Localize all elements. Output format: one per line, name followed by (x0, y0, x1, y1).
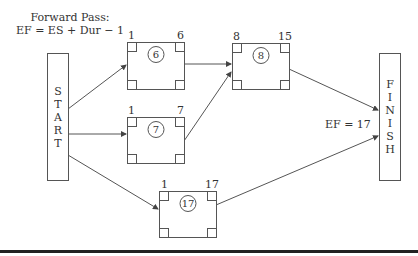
start-letter: S (54, 85, 62, 98)
node-7-ef: 7 (177, 105, 184, 117)
finish-letter: I (388, 91, 392, 104)
start-letter: T (54, 137, 61, 150)
start-letter: A (54, 111, 62, 124)
node-7-id: 7 (148, 121, 165, 138)
activity-node-8: 8 (232, 43, 290, 90)
node-8-ef: 15 (278, 31, 292, 43)
node-17-ef: 17 (205, 179, 219, 191)
activity-node-17: 17 (159, 191, 217, 238)
arrow-7-to-8 (184, 72, 231, 141)
arrow-17-to-finish (216, 136, 378, 205)
start-node: S T A R T (47, 53, 69, 181)
node-6-es: 1 (128, 30, 135, 42)
project-ef-label: EF = 17 (325, 118, 371, 131)
node-6-id: 6 (148, 46, 165, 63)
diagram-title-line1: Forward Pass: (0, 11, 140, 24)
bottom-rule (0, 250, 418, 253)
node-8-es: 8 (233, 31, 240, 43)
activity-node-6: 6 (127, 42, 185, 90)
node-17-id: 17 (180, 195, 197, 212)
finish-letter: H (385, 143, 395, 156)
arrow-8-to-finish (289, 69, 378, 110)
finish-letter: S (386, 130, 394, 143)
finish-letter: I (388, 117, 392, 130)
diagram-title-formula: EF = ES + Dur − 1 (0, 24, 140, 37)
activity-node-7: 7 (127, 117, 185, 164)
finish-letter: N (385, 104, 395, 117)
node-7-es: 1 (128, 105, 135, 117)
finish-node: F I N I S H (379, 53, 401, 181)
node-6-ef: 6 (177, 30, 184, 42)
start-letter: R (54, 124, 62, 137)
arrow-start-to-6 (68, 65, 126, 109)
node-17-es: 1 (161, 179, 168, 191)
start-letter: T (54, 98, 61, 111)
node-8-id: 8 (253, 47, 270, 64)
finish-letter: F (386, 78, 394, 91)
